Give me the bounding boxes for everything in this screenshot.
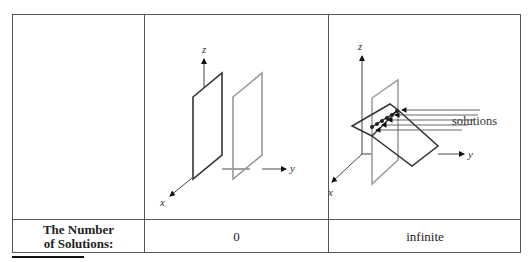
x-axis-label: x — [328, 186, 333, 198]
solutions-count-intersecting: infinite — [329, 220, 521, 253]
y-axis-label: y — [289, 162, 295, 174]
solutions-annotation: solutions — [452, 114, 497, 128]
z-axis-label: z — [201, 43, 207, 55]
y-axis-label: y — [467, 148, 473, 160]
row-label-line1: The Number — [43, 223, 114, 237]
footnote-rule — [12, 256, 84, 258]
row-label: The Number of Solutions: — [13, 220, 144, 253]
parallel-planes-figure: z x y — [144, 14, 328, 218]
z-axis-label: z — [357, 40, 363, 52]
row-label-line2: of Solutions: — [43, 237, 114, 251]
solutions-count-parallel: 0 — [145, 220, 328, 253]
x-axis-label: x — [159, 196, 165, 208]
intersecting-planes-figure: solutions z x y — [328, 14, 521, 218]
